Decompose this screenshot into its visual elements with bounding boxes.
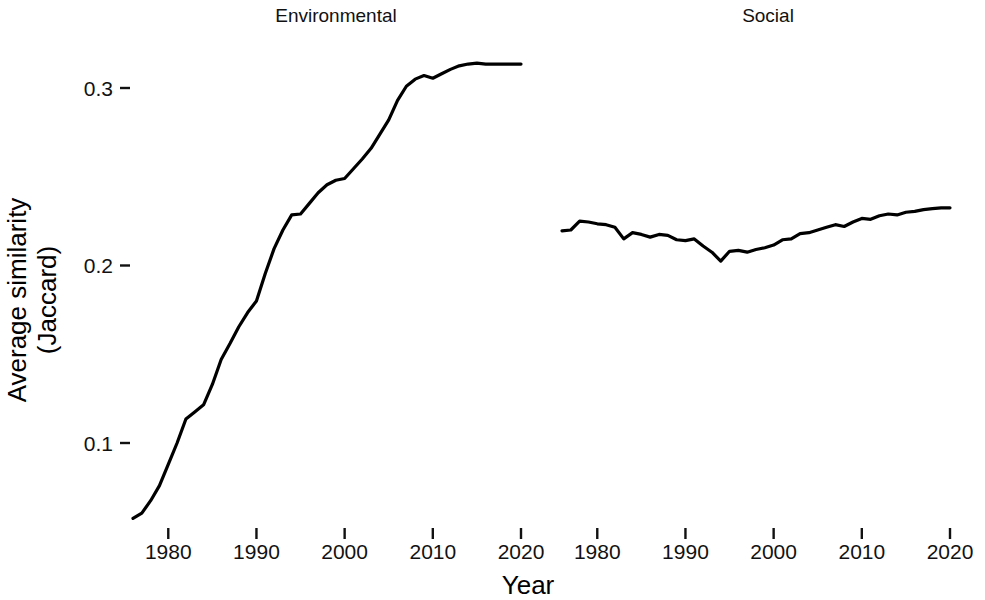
x-tick-label: 1990: [233, 540, 280, 563]
panel-title-social: Social: [742, 5, 794, 26]
line-chart: Environmental Social 0.10.20.3 198019902…: [0, 0, 985, 600]
x-tick-label: 2020: [498, 540, 545, 563]
x-axis-title: Year: [502, 570, 555, 600]
x-tick-label: 2000: [321, 540, 368, 563]
x-tick-label: 2000: [750, 540, 797, 563]
chart-figure: Environmental Social 0.10.20.3 198019902…: [0, 0, 985, 600]
x-tick-label: 1990: [662, 540, 709, 563]
y-axis-title-line2: (Jaccard): [32, 246, 62, 354]
y-tick-label: 0.3: [84, 77, 113, 100]
plot-background: [0, 0, 985, 600]
y-tick-label: 0.2: [84, 254, 113, 277]
x-tick-label: 1980: [574, 540, 621, 563]
y-axis-title-line1: Average similarity: [2, 198, 32, 403]
y-tick-label: 0.1: [84, 432, 113, 455]
x-tick-label: 2010: [838, 540, 885, 563]
x-tick-label: 2020: [927, 540, 974, 563]
panel-title-environmental: Environmental: [275, 5, 396, 26]
x-tick-label: 2010: [409, 540, 456, 563]
x-tick-label: 1980: [145, 540, 192, 563]
